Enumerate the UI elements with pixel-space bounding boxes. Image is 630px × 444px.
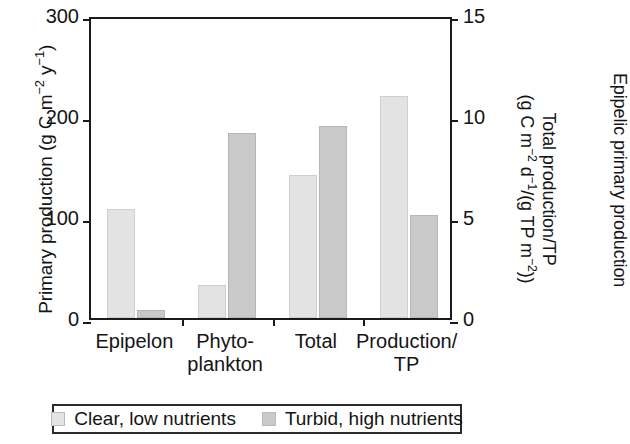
right-axis-tick-label: 15 bbox=[463, 5, 485, 28]
chart-legend: Clear, low nutrients Turbid, high nutrie… bbox=[52, 404, 462, 434]
left-axis-tick bbox=[83, 19, 91, 21]
legend-swatch-icon-series0 bbox=[51, 412, 65, 426]
right-axis-tick-label: 0 bbox=[463, 308, 474, 331]
right-axis-title: Total production/TP (g C m−2 d−1/(g TP m… bbox=[517, 39, 559, 339]
x-axis-category-label: Production/TP bbox=[353, 330, 460, 376]
left-axis-tick-label: 200 bbox=[46, 106, 79, 129]
bar-clear-low-nutrients bbox=[107, 209, 135, 318]
secondary-axis-title: Epipelic primary production bbox=[610, 15, 630, 345]
legend-label-series0: Clear, low nutrients bbox=[74, 408, 236, 430]
right-axis-tick bbox=[450, 221, 458, 223]
bar-turbid-high-nutrients bbox=[410, 215, 438, 318]
left-axis-tick bbox=[83, 322, 91, 324]
x-axis-category-label-line: Production/ bbox=[353, 330, 460, 353]
left-axis-tick-label: 100 bbox=[46, 207, 79, 230]
right-axis-tick bbox=[450, 19, 458, 21]
left-axis-tick bbox=[83, 120, 91, 122]
right-axis-tick-label: 5 bbox=[463, 207, 474, 230]
legend-label-series1: Turbid, high nutrients bbox=[285, 408, 463, 430]
bar-turbid-high-nutrients bbox=[137, 310, 165, 318]
left-axis-tick-label: 300 bbox=[46, 5, 79, 28]
bar-turbid-high-nutrients bbox=[228, 133, 256, 318]
right-axis-tick bbox=[450, 120, 458, 122]
left-axis-tick bbox=[83, 221, 91, 223]
plot-area: 0100200300051015 bbox=[89, 17, 452, 320]
x-axis-category-tick bbox=[273, 318, 275, 326]
bar-clear-low-nutrients bbox=[289, 175, 317, 318]
right-axis-title-line2: (g C m−2 d−1/(g TP m−2)) bbox=[517, 39, 539, 339]
bar-clear-low-nutrients bbox=[380, 96, 408, 318]
left-axis-title-text: Primary production (g C m−2 y−1) bbox=[35, 45, 56, 314]
plot-inner: 0100200300051015 bbox=[91, 19, 450, 318]
x-axis-category-label-line: TP bbox=[353, 353, 460, 376]
bar-clear-low-nutrients bbox=[198, 285, 226, 318]
right-axis-tick bbox=[450, 322, 458, 324]
left-axis-title: Primary production (g C m−2 y−1) bbox=[34, 29, 57, 329]
x-axis-category-tick bbox=[363, 318, 365, 326]
legend-swatch-icon-series1 bbox=[262, 412, 276, 426]
x-axis-category-tick bbox=[182, 318, 184, 326]
bar-turbid-high-nutrients bbox=[319, 126, 347, 318]
x-axis-category-label-line: plankton bbox=[172, 353, 279, 376]
right-axis-tick-label: 10 bbox=[463, 106, 485, 129]
legend-entry-clear-low-nutrients: Clear, low nutrients bbox=[51, 408, 236, 430]
legend-entry-turbid-high-nutrients: Turbid, high nutrients bbox=[262, 408, 463, 430]
left-axis-tick-label: 0 bbox=[68, 308, 79, 331]
right-axis-title-line1: Total production/TP bbox=[539, 112, 559, 265]
